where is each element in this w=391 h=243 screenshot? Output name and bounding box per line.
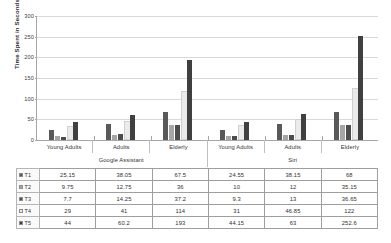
legend-cell: T4	[17, 205, 40, 217]
table-cell: 24.55	[208, 169, 264, 181]
table-row: T37.714.2537.29.31336.65	[17, 193, 378, 205]
category-label-row: Young AdultsAdultsElderlyYoung AdultsAdu…	[36, 140, 378, 153]
table-cell: 122	[321, 205, 377, 217]
legend-label: T2	[25, 184, 32, 190]
table-cell: 14.25	[96, 193, 152, 205]
table-cell: 41	[96, 205, 152, 217]
table-row: T429411143146.85122	[17, 205, 378, 217]
bar-t1	[334, 112, 339, 140]
table-cell: 114	[152, 205, 208, 217]
bar-t5	[73, 122, 78, 140]
legend-swatch-icon	[19, 173, 23, 177]
category-label: Young Adults	[207, 140, 264, 153]
bar-group	[37, 16, 94, 140]
bar-t5	[358, 36, 363, 140]
bar-group	[208, 16, 265, 140]
table-cell: 25.15	[40, 169, 96, 181]
legend-swatch-icon	[19, 197, 23, 201]
table-cell: 29	[40, 205, 96, 217]
y-axis-title: Time Spent in Seconds	[11, 0, 23, 89]
bar-t5	[301, 114, 306, 140]
bar-group	[151, 16, 208, 140]
y-tick-label: 300	[24, 13, 34, 19]
table-cell: 63	[265, 217, 321, 229]
group-label: Google Assistant	[36, 153, 207, 167]
table-row: T29.7512.7536101235.15	[17, 181, 378, 193]
table-cell: 44.15	[208, 217, 264, 229]
legend-swatch-icon	[19, 221, 23, 225]
table-cell: 31	[208, 205, 264, 217]
y-tick-label: 0	[31, 137, 34, 143]
table-cell: 46.85	[265, 205, 321, 217]
y-tick-label: 100	[24, 96, 34, 102]
legend-cell: T2	[17, 181, 40, 193]
table-row: T125.1538.0567.524.5538.1568	[17, 169, 378, 181]
table-cell: 67.5	[152, 169, 208, 181]
plot-area: 050100150200250300	[36, 16, 378, 140]
category-label: Young Adults	[36, 140, 92, 153]
table-cell: 60.2	[96, 217, 152, 229]
bar-t5	[187, 60, 192, 140]
table-cell: 10	[208, 181, 264, 193]
legend-swatch-icon	[19, 209, 23, 213]
bar-t3	[175, 125, 180, 140]
bars-layer	[37, 16, 378, 140]
category-label: Adults	[92, 140, 149, 153]
legend-cell: T5	[17, 217, 40, 229]
plot-wrapper: 050100150200250300	[36, 16, 378, 140]
table-cell: 37.2	[152, 193, 208, 205]
bar-t3	[346, 125, 351, 140]
category-label: Elderly	[321, 140, 378, 153]
table-cell: 13	[265, 193, 321, 205]
table-cell: 36.65	[321, 193, 377, 205]
legend-cell: T1	[17, 169, 40, 181]
bar-t1	[106, 124, 111, 140]
table-cell: 12	[265, 181, 321, 193]
bar-t1	[49, 130, 54, 140]
bar-group	[94, 16, 151, 140]
table-cell: 35.15	[321, 181, 377, 193]
bar-t2	[169, 125, 174, 140]
group-label-row: Google AssistantSiri	[36, 153, 378, 167]
bar-group	[265, 16, 322, 140]
bar-t5	[244, 122, 249, 140]
legend-label: T4	[25, 208, 32, 214]
legend-label: T3	[25, 196, 32, 202]
bar-group	[322, 16, 379, 140]
table-cell: 36	[152, 181, 208, 193]
bar-t1	[277, 124, 282, 140]
bar-t2	[340, 125, 345, 140]
category-label: Adults	[264, 140, 321, 153]
y-tick-label: 200	[24, 54, 34, 60]
legend-label: T1	[25, 172, 32, 178]
table-cell: 9.75	[40, 181, 96, 193]
table-cell: 44	[40, 217, 96, 229]
y-tick-label: 50	[28, 116, 34, 122]
table-cell: 12.75	[96, 181, 152, 193]
table-cell: 38.15	[265, 169, 321, 181]
legend-label: T5	[25, 220, 32, 226]
category-label: Elderly	[149, 140, 206, 153]
data-table: T125.1538.0567.524.5538.1568T29.7512.753…	[16, 168, 378, 229]
bar-t1	[220, 130, 225, 140]
y-tick-label: 150	[24, 75, 34, 81]
table-cell: 68	[321, 169, 377, 181]
bar-t5	[130, 115, 135, 140]
table-cell: 193	[152, 217, 208, 229]
table-cell: 9.3	[208, 193, 264, 205]
bar-chart: Time Spent in Seconds 050100150200250300…	[0, 0, 391, 243]
table-row: T54460.219344.1563252.6	[17, 217, 378, 229]
group-label: Siri	[207, 153, 379, 167]
legend-swatch-icon	[19, 185, 23, 189]
table-cell: 7.7	[40, 193, 96, 205]
bar-t1	[163, 112, 168, 140]
y-tick-label: 250	[24, 34, 34, 40]
legend-cell: T3	[17, 193, 40, 205]
table-cell: 252.6	[321, 217, 377, 229]
table-cell: 38.05	[96, 169, 152, 181]
